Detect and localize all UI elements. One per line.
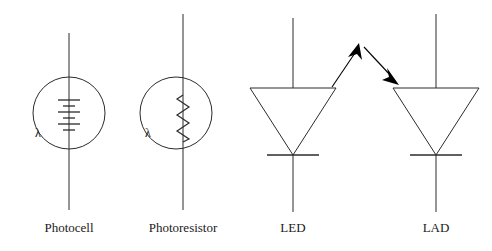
led-triangle-body (250, 88, 336, 155)
light-path-arrows (332, 43, 399, 87)
photocell-label: Photocell (44, 220, 93, 235)
light-received-ray-arrowhead (382, 68, 399, 85)
photocell-symbol: λ Photocell (33, 33, 105, 235)
photocell-lambda-marker: λ (35, 126, 41, 140)
photoresistor-label: Photoresistor (149, 220, 218, 235)
photoresistor-symbol: λ Photoresistor (140, 14, 218, 235)
lad-triangle-body (393, 88, 479, 155)
lad-symbol: LAD (393, 14, 479, 235)
led-label: LED (280, 220, 305, 235)
optoelectronic-symbols-figure: λ Photocell λ Photoresistor LED LAD (0, 0, 492, 251)
photoresistor-lambda-marker: λ (145, 126, 151, 140)
lad-label: LAD (423, 220, 450, 235)
light-emitted-ray-arrowhead (348, 43, 362, 60)
schematic-canvas: λ Photocell λ Photoresistor LED LAD (0, 0, 492, 251)
led-symbol: LED (250, 18, 336, 235)
light-emitted-ray-line (332, 50, 357, 87)
light-received-ray-line (364, 47, 392, 77)
